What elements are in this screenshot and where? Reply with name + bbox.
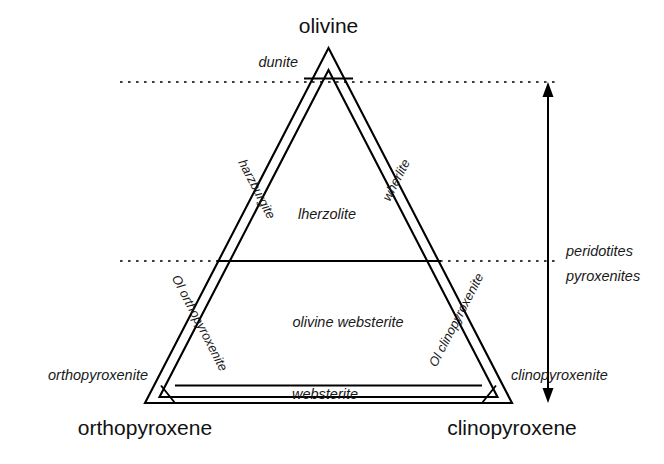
arrow-head-up-icon xyxy=(543,82,554,97)
field-label-lherzolite: lherzolite xyxy=(298,206,356,222)
ternary-diagram-figure: olivine orthopyroxene clinopyroxene duni… xyxy=(0,0,664,464)
outer-triangle-outline xyxy=(145,48,512,403)
field-label-dunite: dunite xyxy=(258,54,298,70)
vertex-label-olivine: olivine xyxy=(299,14,359,37)
field-label-wherlite: wherlite xyxy=(379,157,413,204)
field-label-ol-orthopyroxenite: Ol orthopyroxenite xyxy=(169,272,231,373)
field-label-olivine-websterite: olivine websterite xyxy=(292,314,403,330)
orthopyroxenite-corner-edge xyxy=(161,386,175,404)
field-label-websterite: websterite xyxy=(292,386,358,402)
ternary-diagram-svg: olivine orthopyroxene clinopyroxene duni… xyxy=(0,0,664,464)
group-label-peridotites: peridotites xyxy=(565,243,633,259)
field-label-ol-clinopyroxenite: Ol clinopyroxenite xyxy=(426,271,487,370)
clinopyroxenite-corner-edge xyxy=(482,386,496,404)
group-label-pyroxenites: pyroxenites xyxy=(565,268,640,284)
arrow-head-down-icon xyxy=(543,388,554,403)
field-label-harzburgite: harzburgite xyxy=(235,157,278,222)
vertex-label-clinopyroxene: clinopyroxene xyxy=(447,416,577,439)
field-label-orthopyroxenite: orthopyroxenite xyxy=(48,367,148,383)
vertex-label-orthopyroxene: orthopyroxene xyxy=(78,416,212,439)
field-label-clinopyroxenite: clinopyroxenite xyxy=(511,367,608,383)
